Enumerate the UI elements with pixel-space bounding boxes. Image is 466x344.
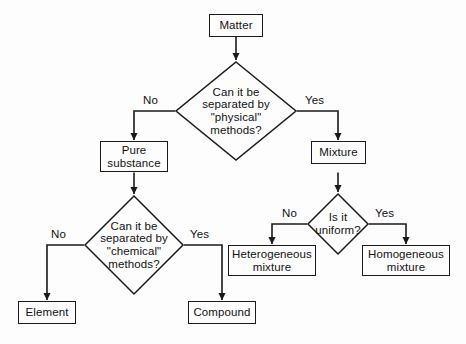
edge-uniform-no-to-heterogeneous: [272, 224, 307, 244]
edge-physical-yes-to-mixture: [297, 111, 338, 140]
node-physical-decision-label: Can it be separated by "physical" method…: [175, 61, 297, 161]
pure-substance-line-1: Pure: [107, 144, 160, 157]
uniform-line-1: Is it: [315, 211, 361, 224]
node-uniform-decision[interactable]: Is it uniform?: [307, 193, 369, 255]
node-element-label: Element: [26, 306, 69, 319]
node-compound-label: Compound: [193, 306, 250, 319]
node-uniform-decision-label: Is it uniform?: [307, 193, 369, 255]
edge-label-chemical-no: No: [51, 228, 66, 240]
uniform-line-2: uniform?: [315, 224, 361, 237]
edge-uniform-yes-to-homogeneous: [369, 224, 406, 244]
edge-physical-no-to-pure: [134, 111, 175, 140]
node-matter[interactable]: Matter: [209, 14, 263, 37]
edge-label-physical-yes: Yes: [305, 94, 324, 106]
node-mixture-label: Mixture: [319, 146, 357, 159]
flowchart-canvas: Matter Can it be separated by "physical"…: [0, 0, 466, 344]
node-matter-label: Matter: [219, 19, 252, 32]
physical-line-3: "physical": [202, 111, 270, 124]
heterogeneous-line-2: mixture: [232, 261, 312, 274]
pure-substance-line-2: substance: [107, 157, 160, 170]
homogeneous-line-1: Homogeneous: [368, 248, 444, 261]
edge-label-chemical-yes: Yes: [190, 228, 209, 240]
chemical-line-4: methods?: [100, 258, 168, 271]
flowchart-connectors: [0, 0, 466, 344]
node-physical-decision[interactable]: Can it be separated by "physical" method…: [175, 61, 297, 161]
physical-line-1: Can it be: [202, 86, 270, 99]
node-compound[interactable]: Compound: [188, 301, 256, 324]
node-heterogeneous-mixture[interactable]: Heterogeneous mixture: [228, 245, 316, 276]
chemical-line-3: "chemical": [100, 245, 168, 258]
homogeneous-line-2: mixture: [368, 261, 444, 274]
edge-label-uniform-no: No: [282, 207, 297, 219]
chemical-line-2: separated by: [100, 232, 168, 245]
node-element[interactable]: Element: [18, 301, 76, 324]
chemical-line-1: Can it be: [100, 220, 168, 233]
physical-line-2: separated by: [202, 98, 270, 111]
node-homogeneous-mixture[interactable]: Homogeneous mixture: [362, 245, 450, 276]
edge-label-uniform-yes: Yes: [375, 207, 394, 219]
physical-line-4: methods?: [202, 124, 270, 137]
node-chemical-decision-label: Can it be separated by "chemical" method…: [84, 195, 184, 295]
node-chemical-decision[interactable]: Can it be separated by "chemical" method…: [84, 195, 184, 295]
node-mixture[interactable]: Mixture: [311, 141, 366, 164]
edge-label-physical-no: No: [143, 94, 158, 106]
heterogeneous-line-1: Heterogeneous: [232, 248, 312, 261]
node-pure-substance[interactable]: Pure substance: [100, 141, 168, 172]
edge-chemical-no-to-element: [47, 245, 84, 300]
edge-chemical-yes-to-compound: [184, 245, 222, 300]
